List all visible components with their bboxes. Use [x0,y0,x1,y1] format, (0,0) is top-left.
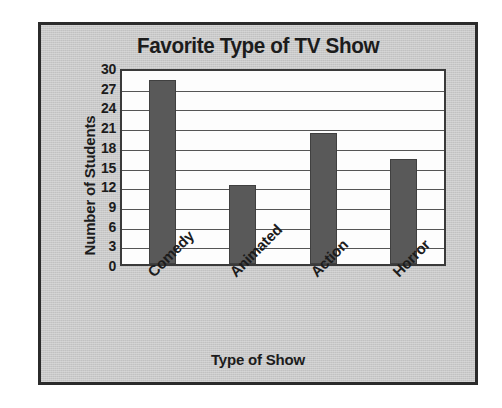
y-axis-tick-label: 27 [101,81,116,97]
bar-series [122,71,444,264]
x-axis-tick-labels: ComedyAnimatedActionHorror [120,268,446,348]
y-axis-tick-label: 18 [101,140,116,156]
bar-comedy [149,80,176,264]
y-axis-tick-label: 0 [109,258,117,274]
x-axis-title: Type of Show [41,351,475,368]
y-axis-tick-label: 15 [101,160,116,176]
y-axis-tick-label: 9 [109,199,117,215]
bar-slot [283,71,364,264]
y-axis-tick-label: 24 [101,100,116,116]
chart-panel: Favorite Type of TV Show Number of Stude… [38,22,478,385]
plot-area [120,69,446,266]
chart-title: Favorite Type of TV Show [54,33,462,59]
y-axis-tick-labels: 302724211815129630 [78,69,116,266]
y-axis-tick-label: 6 [109,219,117,235]
y-axis-tick-label: 12 [101,179,116,195]
y-axis-tick-label: 30 [101,61,116,77]
y-axis-tick-label: 3 [109,238,117,254]
bar-slot [364,71,445,264]
y-axis-tick-label: 21 [101,120,116,136]
